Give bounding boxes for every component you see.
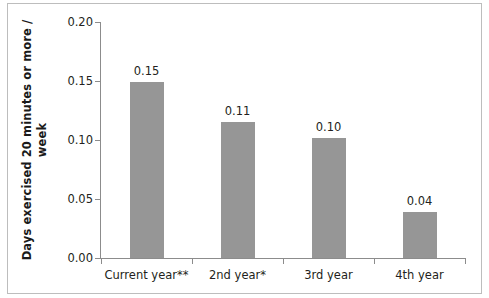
x-category-label: Current year** bbox=[104, 268, 188, 282]
y-tick-label: 0.05 bbox=[33, 192, 93, 206]
y-axis-title-line1: Days exercised 20 minutes or more / bbox=[20, 20, 34, 261]
y-tick-mark bbox=[95, 199, 100, 200]
bar bbox=[403, 212, 437, 258]
bar-value-label: 0.10 bbox=[316, 120, 342, 134]
plot-area bbox=[101, 22, 465, 258]
y-tick-label: 0.20 bbox=[33, 15, 93, 29]
y-tick-mark bbox=[95, 140, 100, 141]
bar bbox=[221, 122, 255, 258]
x-tick-mark bbox=[465, 259, 466, 264]
y-tick-label: 0.15 bbox=[33, 74, 93, 88]
x-category-label: 3rd year bbox=[304, 268, 352, 282]
bar-value-label: 0.11 bbox=[225, 104, 251, 118]
x-tick-mark bbox=[374, 259, 375, 264]
x-tick-mark bbox=[192, 259, 193, 264]
y-tick-label: 0.10 bbox=[33, 133, 93, 147]
bar-value-label: 0.04 bbox=[407, 194, 433, 208]
x-category-label: 2nd year* bbox=[209, 268, 266, 282]
bar bbox=[130, 82, 164, 258]
bar bbox=[312, 138, 346, 258]
x-tick-mark bbox=[101, 259, 102, 264]
y-tick-mark bbox=[95, 81, 100, 82]
x-tick-mark bbox=[283, 259, 284, 264]
y-tick-mark bbox=[95, 22, 100, 23]
y-tick-label: 0.00 bbox=[33, 251, 93, 265]
bar-value-label: 0.15 bbox=[134, 64, 160, 78]
chart-figure: Days exercised 20 minutes or more / week… bbox=[0, 0, 489, 298]
x-category-label: 4th year bbox=[395, 268, 443, 282]
y-tick-mark bbox=[95, 258, 100, 259]
